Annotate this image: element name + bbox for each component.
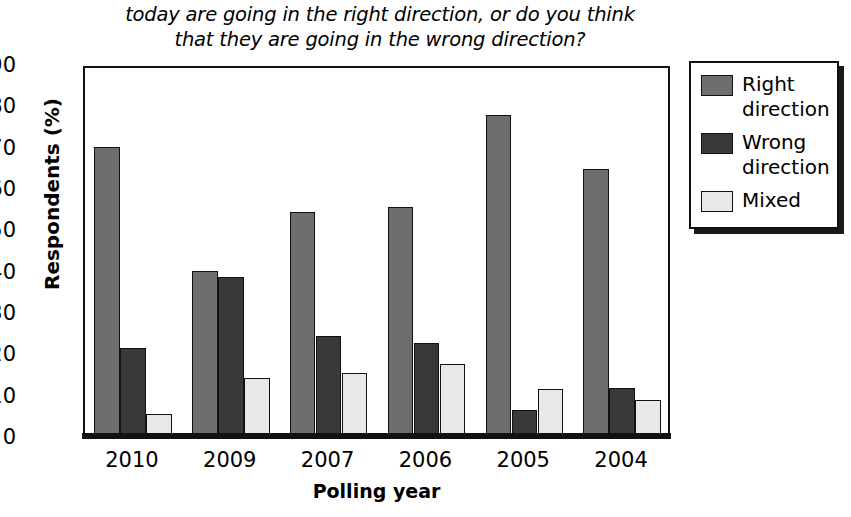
bar-2004-wrong-direction — [609, 388, 635, 436]
y-axis-tick-label: 80 — [0, 94, 16, 118]
y-axis-tick-label: 70 — [0, 136, 16, 160]
bar-2007-wrong-direction — [316, 336, 342, 436]
y-axis-tick-label: 60 — [0, 177, 16, 201]
legend-swatch-icon — [701, 133, 733, 154]
bar-2009-wrong-direction — [218, 277, 244, 436]
y-axis-tick-label: 40 — [0, 260, 16, 284]
chart-title-line-1: today are going in the right direction, … — [60, 2, 700, 27]
y-axis-label: Respondents (%) — [40, 44, 64, 344]
bar-2006-wrong-direction — [414, 343, 440, 436]
x-axis-tick-label-2006: 2006 — [370, 448, 480, 472]
bar-2005-right-direction — [486, 115, 512, 436]
bar-2007-mixed — [342, 373, 368, 436]
bar-2005-mixed — [538, 389, 564, 436]
bar-2006-right-direction — [388, 207, 414, 436]
legend-item-mixed[interactable]: Mixed — [701, 188, 837, 213]
legend-swatch-icon — [701, 75, 733, 96]
bar-2010-mixed — [146, 414, 172, 436]
y-axis-tick-label: 30 — [0, 301, 16, 325]
bar-2007-right-direction — [290, 212, 316, 436]
chart-title: today are going in the right direction, … — [60, 2, 700, 52]
bar-2010-wrong-direction — [120, 348, 146, 436]
x-axis-label: Polling year — [83, 480, 670, 502]
y-axis-tick-label: 20 — [0, 342, 16, 366]
chart-legend: RightdirectionWrongdirectionMixed — [689, 61, 839, 229]
x-axis-tick-label-2009: 2009 — [175, 448, 285, 472]
bar-2006-mixed — [440, 364, 466, 436]
chart-title-line-2: that they are going in the wrong directi… — [60, 27, 700, 52]
x-axis-tick-label-2005: 2005 — [468, 448, 578, 472]
legend-label: Mixed — [742, 188, 801, 213]
y-axis-tick-label: 50 — [0, 218, 16, 242]
y-axis-tick-label: 90 — [0, 53, 16, 77]
y-axis-tick-label: 0 — [0, 425, 16, 449]
bar-2005-wrong-direction — [512, 410, 538, 436]
cropped-footer-text — [8, 508, 238, 517]
x-axis-tick-label-2007: 2007 — [273, 448, 383, 472]
bar-2004-mixed — [635, 400, 661, 436]
legend-item-right-direction[interactable]: Rightdirection — [701, 72, 837, 122]
bar-2009-right-direction — [192, 271, 218, 436]
bar-2009-mixed — [244, 378, 270, 436]
legend-item-wrong-direction[interactable]: Wrongdirection — [701, 130, 837, 180]
x-axis-tick-label-2004: 2004 — [566, 448, 676, 472]
x-axis-tick-label-2010: 2010 — [77, 448, 187, 472]
legend-label: Rightdirection — [742, 72, 830, 122]
legend-swatch-icon — [701, 191, 733, 212]
bar-2010-right-direction — [94, 147, 120, 436]
y-axis-tick-label: 10 — [0, 384, 16, 408]
legend-label: Wrongdirection — [742, 130, 830, 180]
plot-area — [83, 66, 670, 438]
bar-2004-right-direction — [583, 169, 609, 436]
